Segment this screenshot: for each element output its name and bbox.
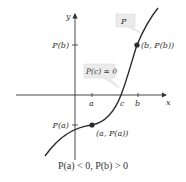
x-axis-label: x — [166, 98, 171, 107]
tick-label-a: a — [89, 99, 94, 108]
callout-curve-name: P — [116, 14, 141, 33]
tick-label-b: b — [135, 99, 140, 108]
point-b-label: (b, P(b)) — [141, 41, 174, 50]
point-a-label: (a, P(a)) — [96, 129, 129, 138]
point-a — [89, 122, 94, 127]
tick-label-p-b: P(b) — [51, 41, 69, 50]
callout-root-text: P(c) = 0 — [85, 67, 117, 76]
y-axis-label: y — [65, 12, 71, 21]
callout-root: P(c) = 0 — [84, 64, 119, 88]
caption: P(a) < 0, P(b) > 0 — [0, 160, 186, 171]
point-b — [134, 42, 139, 47]
ivt-diagram: x y a c b P(b) P(a) (a, P(a)) (b, P(b)) … — [0, 0, 186, 182]
tick-label-c: c — [120, 99, 125, 108]
tick-label-p-a: P(a) — [52, 121, 69, 130]
callout-curve-name-text: P — [120, 17, 127, 26]
